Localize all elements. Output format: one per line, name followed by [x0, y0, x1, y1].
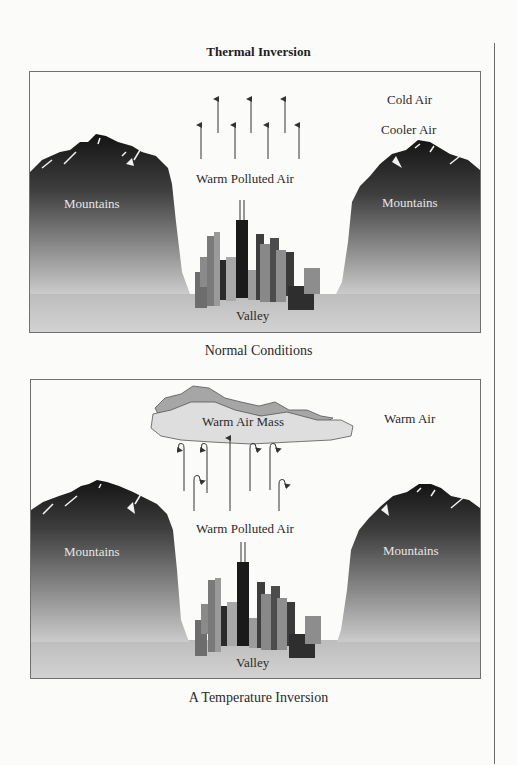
panel-temperature-inversion: Warm Air Mass Warm Air Warm Polluted Air…: [30, 379, 481, 679]
left-mountain-icon: [30, 134, 190, 294]
diagram-title: Thermal Inversion: [0, 44, 517, 60]
label-warm-air: Warm Air: [384, 411, 435, 427]
label-valley: Valley: [236, 308, 269, 324]
label-cooler-air: Cooler Air: [381, 122, 436, 138]
label-warm-polluted-air: Warm Polluted Air: [196, 171, 294, 187]
city-skyline-icon: [195, 200, 320, 310]
panel-normal-conditions: Cold Air Cooler Air Warm Polluted Air Mo…: [29, 71, 481, 333]
right-mountain-icon: [337, 484, 480, 642]
city-skyline-icon: [195, 542, 321, 658]
caption-normal-conditions: Normal Conditions: [0, 343, 517, 359]
label-warm-polluted-air: Warm Polluted Air: [196, 521, 294, 537]
label-left-mountains: Mountains: [64, 544, 120, 560]
page-vertical-rule: [494, 43, 495, 764]
label-valley: Valley: [236, 655, 269, 671]
label-right-mountains: Mountains: [383, 543, 439, 559]
label-warm-air-mass: Warm Air Mass: [202, 414, 284, 430]
right-mountain-icon: [336, 140, 480, 294]
label-cold-air: Cold Air: [387, 92, 432, 108]
label-left-mountains: Mountains: [64, 196, 120, 212]
rising-air-arrows-icon: [201, 99, 299, 159]
left-mountain-icon: [31, 480, 189, 642]
label-right-mountains: Mountains: [382, 195, 438, 211]
caption-temperature-inversion: A Temperature Inversion: [0, 690, 517, 706]
trapped-air-arrows-icon: [178, 438, 286, 511]
